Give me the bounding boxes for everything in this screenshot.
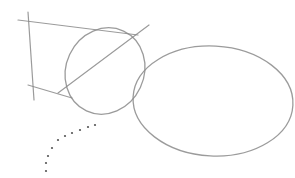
small-tilted-ellipse (51, 15, 159, 128)
dot (57, 139, 59, 141)
dot (45, 170, 47, 172)
diagonal-construction-line (58, 25, 149, 93)
sketch-canvas (0, 0, 295, 178)
large-ellipse (130, 42, 295, 160)
dot (45, 162, 47, 164)
construction-lines (18, 12, 149, 100)
sketch-ellipses (51, 15, 295, 160)
dot (71, 132, 73, 134)
top-construction-line (18, 20, 138, 35)
dot (64, 135, 66, 137)
dot (51, 147, 53, 149)
dot (94, 124, 96, 126)
dotted-arc (45, 124, 96, 172)
dot (79, 129, 81, 131)
dot (87, 126, 89, 128)
dot (47, 155, 49, 157)
